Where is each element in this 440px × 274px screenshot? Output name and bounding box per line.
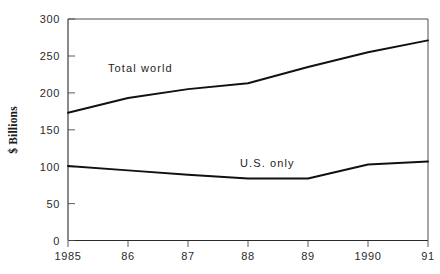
x-axis-tick-labels: 1985 86 87 88 89 1990 91 <box>55 250 435 262</box>
x-tick-label-89: 89 <box>301 250 314 262</box>
y-tick-label-50: 50 <box>47 198 60 210</box>
y-tick-label-150: 150 <box>40 124 60 136</box>
y-axis-ticks <box>68 19 75 241</box>
line-chart: 0 50 100 150 200 250 300 $ Billions 1985… <box>0 0 440 274</box>
plot-frame <box>68 19 428 241</box>
x-tick-label-87: 87 <box>181 250 194 262</box>
series-line-total-world <box>68 40 428 112</box>
y-tick-label-300: 300 <box>40 13 60 25</box>
x-axis-ticks <box>68 241 428 248</box>
y-tick-label-0: 0 <box>53 235 60 247</box>
chart-canvas: 0 50 100 150 200 250 300 $ Billions 1985… <box>0 0 440 274</box>
x-tick-label-91: 91 <box>421 250 434 262</box>
x-tick-label-86: 86 <box>121 250 134 262</box>
x-tick-label-88: 88 <box>241 250 254 262</box>
series-annotation-us-only: U.S. only <box>240 157 295 169</box>
x-tick-label-1985: 1985 <box>55 250 82 262</box>
y-tick-label-100: 100 <box>40 161 60 173</box>
y-tick-label-200: 200 <box>40 87 60 99</box>
x-tick-label-1990: 1990 <box>355 250 382 262</box>
y-tick-label-250: 250 <box>40 50 60 62</box>
y-axis-title: $ Billions <box>7 106 19 154</box>
series-annotation-total-world: Total world <box>108 62 173 74</box>
y-axis-tick-labels: 0 50 100 150 200 250 300 <box>40 13 60 247</box>
